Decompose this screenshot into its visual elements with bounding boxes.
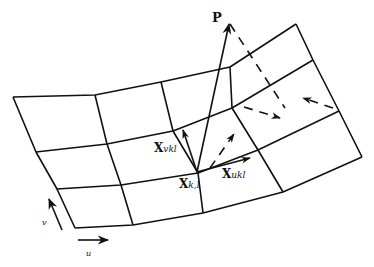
grid-col-1 xyxy=(95,95,133,225)
projection-arrow-left xyxy=(303,98,333,108)
force-vector-p xyxy=(197,24,229,172)
tangent-v-label-sub: vkl xyxy=(163,144,177,154)
force-label: P xyxy=(212,10,222,25)
grid-row-0 xyxy=(13,24,296,97)
tangent-u-label-sub: ukl xyxy=(231,170,245,180)
node-label: Xk,l xyxy=(179,177,200,191)
surface-grid-diagram: P Xvkl Xk,l Xukl u v xyxy=(0,0,374,267)
axis-u-label: u xyxy=(86,249,91,258)
axis-v-label: v xyxy=(42,218,47,227)
grid-row-3 xyxy=(75,157,362,228)
axis-v-arrow xyxy=(49,199,62,230)
grid-row-1 xyxy=(36,60,313,152)
dashed-arrows xyxy=(210,24,333,168)
projection-arrow-right xyxy=(244,107,280,118)
grid-mesh xyxy=(13,24,362,228)
grid-col-0 xyxy=(13,97,75,228)
tangent-u-label: Xukl xyxy=(222,167,246,181)
grid-col-4 xyxy=(296,24,362,157)
node-label-sub: k,l xyxy=(188,180,199,190)
tangent-v-label: Xvkl xyxy=(154,141,177,155)
